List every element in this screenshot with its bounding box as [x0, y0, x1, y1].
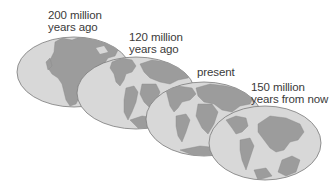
- label-line: 120 million: [129, 31, 183, 43]
- globe-150-million-years-from-now: [209, 106, 321, 180]
- label-150-million-years-from-now: 150 million years from now: [251, 81, 328, 105]
- label-200-million-years-ago: 200 million years ago: [48, 9, 102, 33]
- label-line: 150 million: [251, 81, 328, 93]
- label-line: years ago: [48, 21, 102, 33]
- label-line: years from now: [251, 93, 328, 105]
- label-line: present: [197, 66, 235, 78]
- label-120-million-years-ago: 120 million years ago: [129, 31, 183, 55]
- label-line: 200 million: [48, 9, 102, 21]
- label-line: years ago: [129, 43, 183, 55]
- label-present: present: [197, 66, 235, 78]
